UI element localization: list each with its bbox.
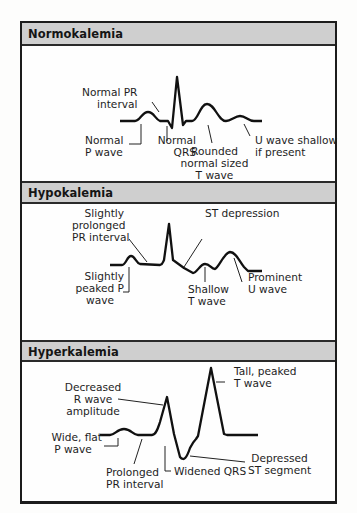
label-p-wave: Normal P wave	[85, 134, 123, 158]
label-p-wave: Wide, flat P wave	[44, 431, 102, 455]
label-t-wave: Tall, peaked T wave	[234, 365, 297, 389]
label-p-wave: Slightly peaked P wave	[72, 270, 124, 306]
label-pr-interval: Slightly prolonged PR interval	[72, 207, 124, 243]
section-title: Hypokalemia	[28, 186, 113, 200]
label-st-segment: Depressed ST segment	[248, 452, 311, 476]
label-t-wave: Shallow T wave	[188, 283, 229, 307]
section-hyperkalemia: Decreased R wave amplitude Tall, peaked …	[22, 362, 335, 501]
section-title: Hyperkalemia	[28, 345, 119, 359]
ecg-potassium-figure: Normokalemia Normal PR interval Normal P…	[20, 21, 337, 504]
section-title: Normokalemia	[28, 27, 123, 41]
section-normokalemia: Normal PR interval Normal P wave Normal …	[22, 46, 335, 181]
label-u-wave: U wave shallow if present	[255, 134, 337, 158]
label-u-wave: Prominent U wave	[248, 271, 302, 295]
section-header-normokalemia: Normokalemia	[22, 23, 335, 46]
section-header-hypokalemia: Hypokalemia	[22, 181, 335, 204]
section-header-hyperkalemia: Hyperkalemia	[22, 340, 335, 362]
section-hypokalemia: Slightly prolonged PR interval ST depres…	[22, 204, 335, 340]
label-qrs: Widened QRS	[174, 465, 246, 477]
label-r-wave: Decreased R wave amplitude	[58, 381, 128, 417]
label-pr-interval: Normal PR interval	[82, 86, 137, 110]
label-st-depression: ST depression	[205, 207, 279, 219]
label-pr-interval: Prolonged PR interval	[106, 466, 164, 490]
label-t-wave: Rounded normal sized T wave	[177, 145, 252, 181]
